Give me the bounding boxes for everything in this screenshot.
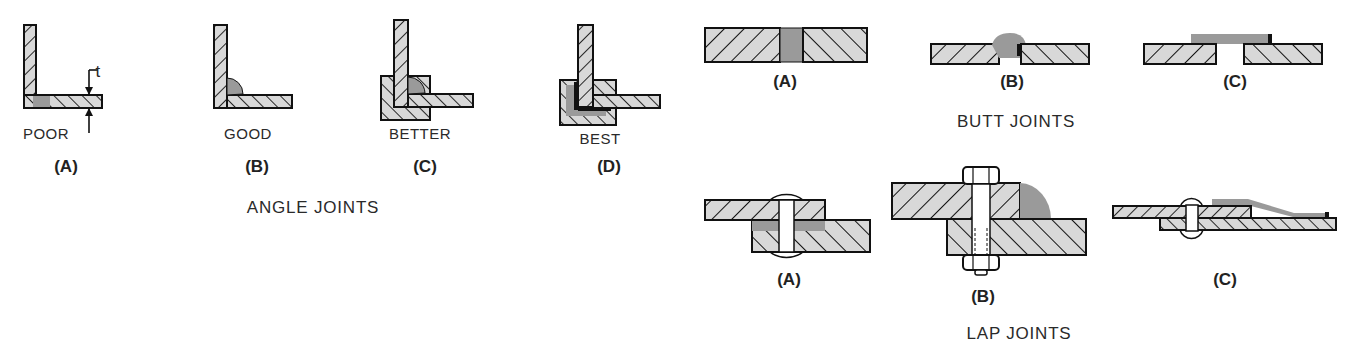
angle-a-tag: (A) bbox=[54, 157, 78, 177]
angle-joint-d-figure bbox=[560, 25, 660, 125]
lap-joint-c-figure bbox=[1113, 198, 1336, 238]
angle-d-tag: (D) bbox=[597, 157, 621, 177]
lap-joints-group-label: LAP JOINTS bbox=[967, 324, 1072, 344]
angle-b-rating: GOOD bbox=[224, 125, 272, 142]
lap-joint-a-figure bbox=[705, 195, 870, 258]
angle-c-tag: (C) bbox=[413, 157, 437, 177]
lap-a-tag: (A) bbox=[777, 270, 801, 290]
angle-joint-b-figure bbox=[214, 25, 292, 108]
butt-joints-group-label: BUTT JOINTS bbox=[957, 112, 1075, 132]
butt-joint-b-figure bbox=[931, 33, 1089, 64]
butt-c-tag: (C) bbox=[1223, 72, 1247, 92]
angle-joint-a-figure bbox=[24, 25, 102, 133]
lap-b-tag: (B) bbox=[971, 287, 995, 307]
thickness-dimension-label: t bbox=[95, 62, 100, 82]
angle-d-rating: BEST bbox=[579, 130, 620, 147]
butt-a-tag: (A) bbox=[773, 72, 797, 92]
angle-a-rating: POOR bbox=[23, 125, 69, 142]
angle-c-rating: BETTER bbox=[389, 125, 451, 142]
butt-joint-a-figure bbox=[705, 28, 867, 62]
joints-diagram bbox=[0, 0, 1354, 357]
angle-joint-c-figure bbox=[381, 20, 473, 120]
butt-joint-c-figure bbox=[1144, 34, 1322, 64]
angle-joints-group-label: ANGLE JOINTS bbox=[247, 198, 379, 218]
lap-joint-b-figure bbox=[892, 167, 1086, 275]
lap-c-tag: (C) bbox=[1213, 270, 1237, 290]
butt-b-tag: (B) bbox=[1000, 72, 1024, 92]
angle-b-tag: (B) bbox=[245, 157, 269, 177]
